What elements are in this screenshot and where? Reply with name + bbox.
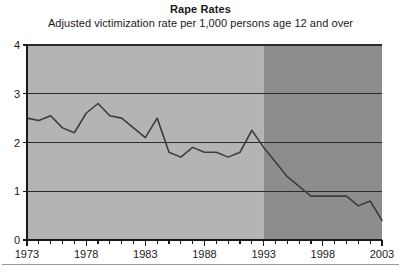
plot-area: 012341973197819831988199319982003 [0,34,401,256]
x-axis-label-1983: 1983 [125,248,165,260]
y-axis-label-3: 3 [2,88,20,100]
chart-figure: Rape Rates Adjusted victimization rate p… [0,0,401,273]
x-axis-label-1998: 1998 [303,248,343,260]
x-axis-label-1978: 1978 [66,248,106,260]
x-axis-label-1993: 1993 [244,248,284,260]
footer-divider [2,264,399,265]
chart-title: Rape Rates [0,3,401,15]
y-axis-label-0: 0 [2,234,20,246]
x-axis-label-1973: 1973 [7,248,47,260]
y-axis-label-2: 2 [2,137,20,149]
x-axis-label-2003: 2003 [362,248,401,260]
x-axis-label-1988: 1988 [185,248,225,260]
chart-subtitle: Adjusted victimization rate per 1,000 pe… [0,17,401,29]
line-chart-svg [0,34,401,256]
y-axis-label-4: 4 [2,39,20,51]
y-axis-label-1: 1 [2,185,20,197]
